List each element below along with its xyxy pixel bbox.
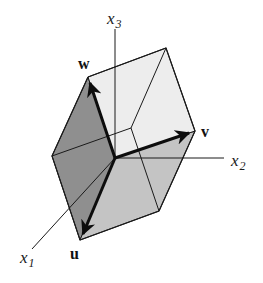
x2-label: x2	[230, 151, 246, 173]
parallelepiped-diagram: x3 x2 x1 w v u	[0, 0, 263, 283]
x3-label: x3	[106, 9, 122, 31]
w-label: w	[78, 55, 90, 72]
v-label: v	[201, 123, 209, 140]
x1-label: x1	[19, 248, 35, 270]
u-label: u	[70, 245, 79, 262]
